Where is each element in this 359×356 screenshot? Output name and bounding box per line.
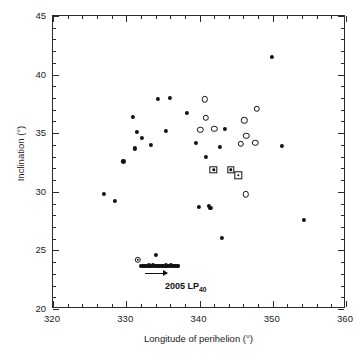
x-tick-top-major [346,16,347,22]
y-tick-label: 40 [20,68,46,79]
y-tick-minor [53,28,56,29]
x-tick-top-minor [302,16,303,19]
x-tick-minor [82,304,83,307]
data-point-open-circle [241,117,247,123]
annotation-label: 2005 LP40 [165,281,207,293]
x-tick-minor [258,304,259,307]
y-tick-right-minor [341,297,344,298]
x-tick-top-minor [287,16,288,19]
x-tick-top-major [200,16,201,22]
x-tick-minor [214,304,215,307]
x-tick-minor [97,304,98,307]
data-point-square-with-dot [210,166,217,173]
y-tick-minor [53,274,56,275]
y-tick-right-major [338,309,344,310]
y-tick-minor [53,297,56,298]
x-tick-minor [185,304,186,307]
data-point-filled-circle [135,130,139,134]
x-tick-top-minor [317,16,318,19]
data-point-open-circle [237,141,243,147]
y-tick-minor [53,204,56,205]
y-tick-right-minor [341,227,344,228]
data-point-open-circle [203,115,209,121]
data-point-filled-circle [223,126,227,130]
x-tick-label: 320 [44,313,60,324]
y-tick-minor [53,39,56,40]
y-tick-minor [53,180,56,181]
annotation-arrow [145,273,167,274]
y-tick-right-minor [341,215,344,216]
data-point-filled-circle [140,136,144,140]
y-tick-right-minor [341,157,344,158]
data-point-filled-circle [194,140,198,144]
y-tick-minor [53,262,56,263]
y-tick-right-minor [341,262,344,263]
y-tick-right-minor [341,145,344,146]
y-tick-label: 20 [20,303,46,314]
x-tick-minor [112,304,113,307]
y-tick-label: 35 [20,127,46,138]
y-tick-right-minor [341,51,344,52]
data-point-filled-circle [133,146,137,150]
x-tick-minor [156,304,157,307]
y-tick-right-minor [341,274,344,275]
data-point-filled-circle [102,192,106,196]
x-tick-major [200,301,201,307]
x-tick-label: 330 [117,313,133,324]
x-tick-top-minor [170,16,171,19]
data-point-filled-circle [301,218,305,222]
data-point-filled-circle [204,155,208,159]
y-tick-major [53,250,59,251]
y-tick-right-minor [341,110,344,111]
data-point-open-circle [242,191,248,197]
x-tick-top-minor [68,16,69,19]
x-tick-top-minor [214,16,215,19]
y-tick-right-minor [341,28,344,29]
x-tick-minor [141,304,142,307]
x-tick-minor [170,304,171,307]
data-point-open-circle [253,105,259,111]
x-tick-top-minor [331,16,332,19]
y-tick-right-major [338,75,344,76]
x-tick-major [346,301,347,307]
y-tick-right-major [338,16,344,17]
x-tick-major [53,301,54,307]
x-tick-top-minor [258,16,259,19]
plot-area: 2005 LP40 [52,15,345,308]
data-point-filled-circle [185,111,189,115]
x-tick-minor [331,304,332,307]
data-point-square-with-dot [235,172,242,179]
y-tick-right-minor [341,204,344,205]
y-tick-minor [53,168,56,169]
data-point-circled-dot [135,257,141,263]
y-tick-right-minor [341,180,344,181]
data-point-filled-circle [197,205,201,209]
y-tick-minor [53,215,56,216]
y-tick-major [53,75,59,76]
x-tick-top-minor [112,16,113,19]
y-tick-right-major [338,192,344,193]
y-tick-right-minor [341,239,344,240]
y-tick-major [53,192,59,193]
data-point-filled-circle [208,206,212,210]
x-tick-top-major [126,16,127,22]
annotation-label-subscript: 40 [199,286,207,293]
data-point-open-circle [197,126,203,132]
x-tick-top-minor [243,16,244,19]
y-tick-minor [53,239,56,240]
data-point-square-with-dot [227,166,234,173]
y-tick-minor [53,145,56,146]
x-tick-minor [317,304,318,307]
x-tick-top-minor [185,16,186,19]
x-tick-top-minor [229,16,230,19]
y-tick-right-minor [341,286,344,287]
annotation-label-main: 2005 LP [165,281,199,291]
data-point-filled-circle [131,115,135,119]
y-tick-minor [53,121,56,122]
data-point-filled-circle [112,199,116,203]
data-point-filled-circle [168,96,172,100]
data-point-open-circle [211,125,217,131]
y-tick-minor [53,157,56,158]
y-tick-right-minor [341,63,344,64]
x-tick-major [126,301,127,307]
